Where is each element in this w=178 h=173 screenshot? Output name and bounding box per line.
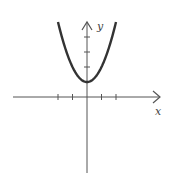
y-axis-label: y: [96, 20, 104, 33]
x-axis-label: x: [155, 105, 162, 118]
parabola-graph: y x: [0, 0, 178, 173]
